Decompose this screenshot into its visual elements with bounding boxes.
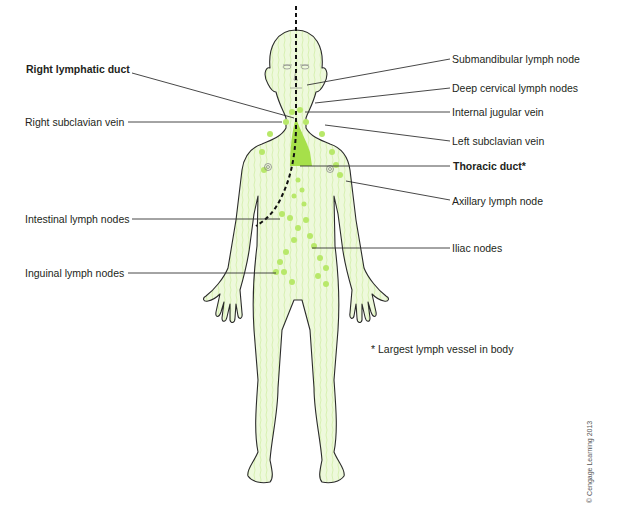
label-submandibular-lymph-node: Submandibular lymph node [452, 53, 580, 65]
label-right-subclavian-vein: Right subclavian vein [25, 116, 124, 128]
label-left-subclavian-vein: Left subclavian vein [452, 135, 544, 147]
copyright-notice: © Cengage Learning 2013 [586, 421, 593, 503]
lymphatic-body-diagram [0, 0, 619, 521]
label-axillary-lymph-node: Axillary lymph node [452, 195, 543, 207]
label-right-lymphatic-duct: Right lymphatic duct [26, 63, 130, 75]
label-inguinal-lymph-nodes: Inguinal lymph nodes [25, 267, 124, 279]
label-iliac-nodes: Iliac nodes [452, 242, 502, 254]
footnote: * Largest lymph vessel in body [371, 343, 513, 355]
label-intestinal-lymph-nodes: Intestinal lymph nodes [25, 213, 129, 225]
label-internal-jugular-vein: Internal jugular vein [452, 106, 544, 118]
label-thoracic-duct: Thoracic duct* [453, 160, 526, 172]
label-deep-cervical-lymph-nodes: Deep cervical lymph nodes [452, 82, 578, 94]
